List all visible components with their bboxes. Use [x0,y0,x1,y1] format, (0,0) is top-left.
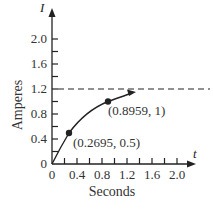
current-chart: 0 0.4 0.8 1.2 1.6 2.0 0 0.4 0.8 1.2 1.6 … [0,0,213,209]
y-variable-label: I [39,0,45,15]
x-axis-arrow-icon [187,161,196,168]
point-label-2: (0.8959, 1) [108,103,165,118]
point-label-1: (0.2695, 0.5) [73,135,140,150]
y-tick-label: 1.6 [31,56,48,71]
x-tick-label: 1.2 [119,167,135,182]
x-tick-label: 0.8 [94,167,110,182]
x-tick-label: 2.0 [169,167,185,182]
y-ticks [52,39,58,152]
x-variable-label: t [193,146,197,161]
x-ticks [65,158,178,164]
y-tick-label: 2.0 [31,31,47,46]
data-point-1 [66,130,72,136]
x-tick-label: 0.4 [69,167,86,182]
x-axis-title: Seconds [89,184,136,199]
y-tick-label: 0.4 [31,131,48,146]
x-tick-label: 0 [49,167,56,182]
x-tick-label: 1.6 [144,167,161,182]
y-axis-title: Amperes [10,80,25,131]
y-axis-arrow-icon [49,8,56,17]
y-tick-label: 0.8 [31,106,47,121]
y-tick-label-0: 0 [41,156,48,171]
y-tick-label: 1.2 [31,81,47,96]
